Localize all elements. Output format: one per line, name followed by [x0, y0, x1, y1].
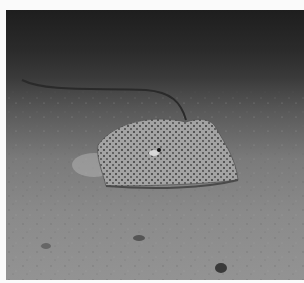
- stingray-photo: [6, 10, 304, 280]
- stingray-illustration: [6, 10, 304, 280]
- shell-debris: [133, 235, 145, 241]
- shell-debris: [41, 243, 51, 249]
- stingray-body: [98, 119, 238, 186]
- rock-debris: [215, 263, 227, 273]
- stingray-eye: [157, 148, 161, 152]
